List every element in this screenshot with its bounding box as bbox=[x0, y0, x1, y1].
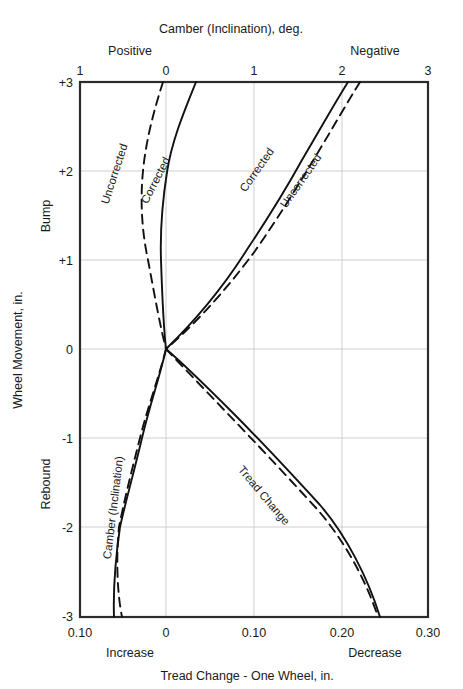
y-axis-bump-label: Bump bbox=[39, 200, 53, 233]
suspension-geometry-chart: Camber (Inclination), deg. Positive Nega… bbox=[0, 0, 463, 689]
bottom-tick-label-0: 0.10 bbox=[68, 626, 92, 640]
y-axis-title: Wheel Movement, in. bbox=[11, 291, 25, 408]
bottom-axis-decrease-label: Decrease bbox=[348, 646, 402, 660]
bottom-axis-increase-label: Increase bbox=[106, 646, 154, 660]
y-tick-label-3: 0 bbox=[66, 343, 73, 357]
y-tick-label-0: +3 bbox=[59, 76, 73, 90]
top-tick-label-1: 0 bbox=[163, 64, 170, 78]
top-tick-label-0: 1 bbox=[77, 64, 84, 78]
bottom-tick-label-3: 0.20 bbox=[330, 626, 354, 640]
bottom-axis-title: Tread Change - One Wheel, in. bbox=[160, 669, 333, 683]
y-tick-label-1: +2 bbox=[59, 165, 73, 179]
chart-canvas: Camber (Inclination), deg. Positive Nega… bbox=[0, 0, 463, 689]
y-tick-label-6: -3 bbox=[62, 610, 73, 624]
bottom-tick-label-2: 0.10 bbox=[242, 626, 266, 640]
bottom-tick-label-1: 0 bbox=[163, 626, 170, 640]
top-axis-positive-label: Positive bbox=[108, 44, 152, 58]
top-tick-label-4: 3 bbox=[425, 64, 432, 78]
top-axis-title: Camber (Inclination), deg. bbox=[159, 22, 303, 36]
top-tick-label-3: 2 bbox=[339, 64, 346, 78]
y-axis-rebound-label: Rebound bbox=[39, 459, 53, 510]
y-tick-label-5: -2 bbox=[62, 521, 73, 535]
top-axis-negative-label: Negative bbox=[350, 44, 399, 58]
top-tick-label-2: 1 bbox=[251, 64, 258, 78]
y-tick-label-4: -1 bbox=[62, 432, 73, 446]
bottom-tick-label-4: 0.30 bbox=[416, 626, 440, 640]
y-tick-label-2: +1 bbox=[59, 254, 73, 268]
